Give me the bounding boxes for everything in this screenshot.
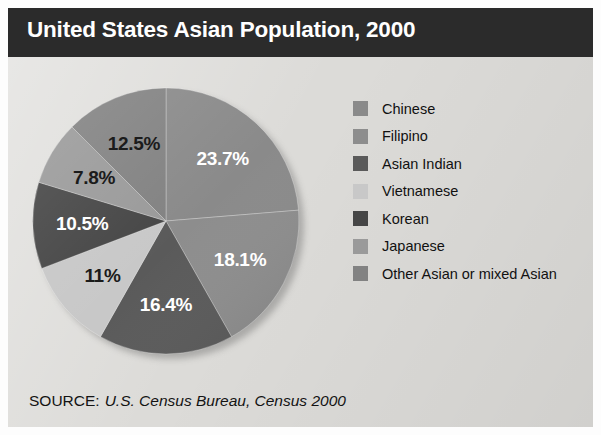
pie-slice-value-label: 18.1% (214, 249, 266, 271)
legend-item: Vietnamese (353, 178, 585, 206)
legend-swatch-icon (353, 129, 368, 144)
legend-swatch-icon (353, 156, 368, 171)
legend-item: Filipino (353, 123, 585, 151)
legend-item: Asian Indian (353, 150, 585, 178)
legend-swatch-icon (353, 266, 368, 281)
chart-body: 23.7%18.1%16.4%11%10.5%7.8%12.5% Chinese… (8, 57, 593, 427)
legend-item-label: Chinese (382, 101, 435, 117)
source-label: SOURCE: (29, 392, 100, 409)
legend-item-label: Other Asian or mixed Asian (382, 266, 557, 282)
pie-slice-value-label: 10.5% (56, 213, 108, 235)
pie-slice-value-label: 7.8% (73, 167, 115, 189)
legend-item-label: Asian Indian (382, 156, 462, 172)
legend-item-label: Vietnamese (382, 183, 458, 199)
chart-card: United States Asian Population, 2000 23.… (8, 8, 593, 427)
legend-item: Chinese (353, 95, 585, 123)
chart-figure: United States Asian Population, 2000 23.… (0, 0, 601, 435)
page-title: United States Asian Population, 2000 (27, 17, 415, 43)
pie-slice-value-label: 23.7% (197, 148, 249, 170)
pie-chart: 23.7%18.1%16.4%11%10.5%7.8%12.5% (32, 87, 300, 355)
legend-item: Other Asian or mixed Asian (353, 260, 585, 288)
legend-swatch-icon (353, 239, 368, 254)
source-note: SOURCE:U.S. Census Bureau, Census 2000 (29, 392, 346, 410)
legend-item-label: Japanese (382, 238, 445, 254)
legend-swatch-icon (353, 101, 368, 116)
legend-item: Japanese (353, 233, 585, 261)
legend-item-label: Korean (382, 211, 429, 227)
pie-slice-value-label: 12.5% (108, 133, 160, 155)
legend-item: Korean (353, 205, 585, 233)
pie-slice-value-label: 16.4% (140, 294, 192, 316)
pie-slice-value-label: 11% (84, 265, 120, 287)
source-value: U.S. Census Bureau, Census 2000 (105, 392, 346, 409)
legend-swatch-icon (353, 184, 368, 199)
legend-swatch-icon (353, 211, 368, 226)
title-bar: United States Asian Population, 2000 (8, 8, 593, 57)
legend: ChineseFilipinoAsian IndianVietnameseKor… (353, 95, 585, 288)
legend-item-label: Filipino (382, 128, 428, 144)
